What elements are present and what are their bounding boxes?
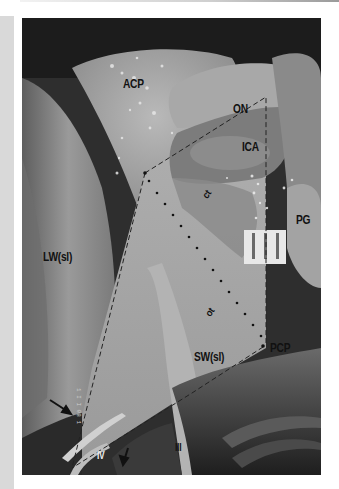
label-lw-sl: LW(sl) [43,250,72,264]
label-pcp: PCP [270,341,290,355]
anatomical-photo: 1 I I 08 1 ACP ON ICA ct PG LW(sl) ot SW… [22,18,321,475]
label-iv: IV [97,450,105,461]
label-iii: III [175,442,181,453]
label-sw-sl: SW(sl) [194,350,224,364]
svg-text:1 I I 08 1: 1 I I 08 1 [75,388,82,424]
label-acp: ACP [123,77,144,91]
label-ica: ICA [242,140,259,154]
top-rule [20,0,339,2]
photo-rendering: 1 I I 08 1 [22,18,321,475]
label-pg: PG [296,213,310,227]
label-on: ON [233,102,248,116]
left-margin-strip [0,16,14,489]
